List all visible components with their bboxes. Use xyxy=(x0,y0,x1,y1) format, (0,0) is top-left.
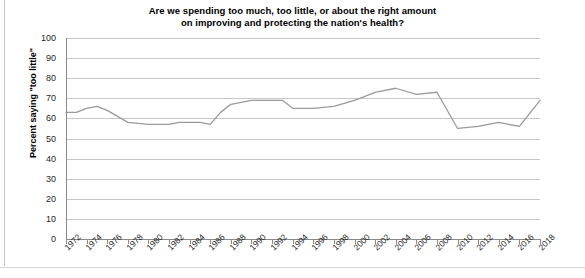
plot-area-wrapper: 1009080706050403020100 19721974197619781… xyxy=(0,0,585,278)
y-tick-label: 50 xyxy=(22,135,56,144)
plot-area xyxy=(66,38,540,239)
y-axis-tick-labels: 1009080706050403020100 xyxy=(22,31,56,246)
y-tick-label: 0 xyxy=(22,235,56,244)
y-tick-label: 10 xyxy=(22,215,56,224)
y-tick-label: 70 xyxy=(22,94,56,103)
y-tick-label: 80 xyxy=(22,74,56,83)
series-polyline xyxy=(66,88,540,128)
line-series xyxy=(66,38,540,239)
y-tick-label: 20 xyxy=(22,195,56,204)
y-axis-line xyxy=(66,38,67,240)
y-tick-label: 60 xyxy=(22,114,56,123)
y-tick-label: 40 xyxy=(22,155,56,164)
y-tick-label: 100 xyxy=(22,34,56,43)
chart-page: Are we spending too much, too little, or… xyxy=(0,0,585,278)
y-tick-label: 30 xyxy=(22,175,56,184)
y-tick-label: 90 xyxy=(22,54,56,63)
